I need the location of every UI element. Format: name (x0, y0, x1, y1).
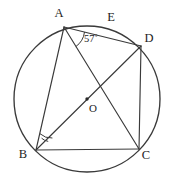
vertex-label-b: B (19, 147, 27, 161)
vertex-label-e: E (107, 10, 115, 24)
segment-ab (36, 27, 64, 150)
vertex-label-d: D (144, 31, 153, 45)
segment-ad (64, 27, 141, 46)
geometry-figure: A B C D E O 57˚ (0, 0, 171, 183)
segment-bc (36, 149, 139, 150)
segment-bd-diameter (36, 46, 141, 150)
segment-cd (139, 46, 141, 149)
vertex-label-a: A (54, 6, 63, 20)
center-label-o: O (89, 102, 97, 114)
vertex-label-c: C (142, 148, 150, 162)
segment-ac-diameter (64, 27, 139, 149)
geometry-canvas: A B C D E O 57˚ (0, 0, 171, 183)
angle-label-57: 57˚ (84, 33, 98, 44)
center-dot (85, 97, 88, 100)
